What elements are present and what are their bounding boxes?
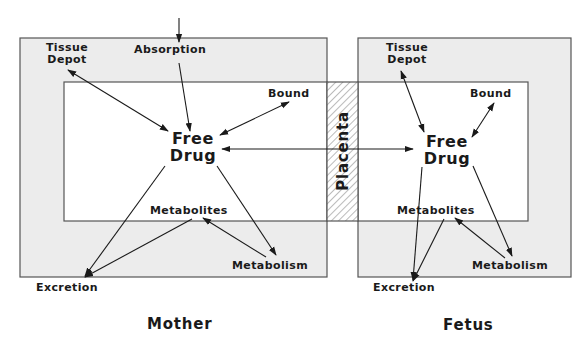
fetus-free-drug-label: Free Drug (418, 134, 476, 168)
fetus-excretion-label: Excretion (373, 282, 435, 294)
mother-excretion-label: Excretion (36, 282, 98, 294)
fetus-free-drug-line2: Drug (418, 151, 476, 168)
fetus-bound-label: Bound (470, 88, 511, 100)
fetus-metabolism-label: Metabolism (472, 260, 548, 272)
absorption-label: Absorption (134, 44, 206, 56)
mother-bound-label: Bound (268, 88, 309, 100)
mother-tissue-depot-line1: Tissue (37, 42, 97, 54)
fetus-tissue-depot-label: Tissue Depot (377, 42, 437, 65)
mother-metabolites-label: Metabolites (150, 205, 228, 217)
fetus-title: Fetus (443, 318, 494, 334)
mother-free-drug-line2: Drug (162, 148, 224, 165)
placenta-label: Placenta (334, 109, 352, 193)
mother-tissue-depot-label: Tissue Depot (37, 42, 97, 65)
mother-free-drug-label: Free Drug (162, 131, 224, 165)
mother-metabolism-label: Metabolism (232, 260, 308, 272)
fetus-tissue-depot-line2: Depot (377, 54, 437, 66)
fetus-tissue-depot-line1: Tissue (377, 42, 437, 54)
mother-title: Mother (147, 317, 212, 333)
mother-tissue-depot-line2: Depot (37, 54, 97, 66)
fetus-metabolites-label: Metabolites (397, 205, 475, 217)
